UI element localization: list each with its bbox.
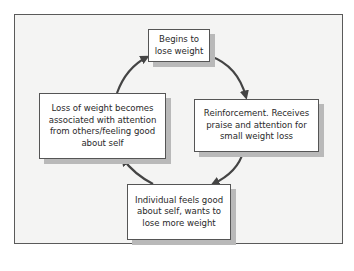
node-feels-good: Individual feels good about self, wants … — [127, 184, 231, 240]
node-begins-to-lose-weight: Begins to lose weight — [148, 29, 210, 62]
node-text-line: praise and attention for — [204, 120, 309, 132]
node-text-line: lose more weight — [135, 218, 223, 230]
node-text-line: lose weight — [155, 46, 204, 58]
node-text-line: Individual feels good — [135, 195, 223, 207]
node-text-line: about self, wants to — [135, 206, 223, 218]
node-text-line: Loss of weight becomes — [49, 103, 157, 115]
node-loss-associated-with-attention: Loss of weight becomes associated with a… — [39, 93, 166, 159]
node-text-line: small weight loss — [204, 131, 309, 143]
node-text-line: about self — [49, 138, 157, 150]
node-text-line: from others/feeling good — [49, 126, 157, 138]
node-text-line: Reinforcement. Receives — [204, 108, 309, 120]
node-reinforcement: Reinforcement. Receives praise and atten… — [194, 99, 319, 152]
node-text-line: associated with attention — [49, 115, 157, 127]
node-text-line: Begins to — [155, 34, 204, 46]
